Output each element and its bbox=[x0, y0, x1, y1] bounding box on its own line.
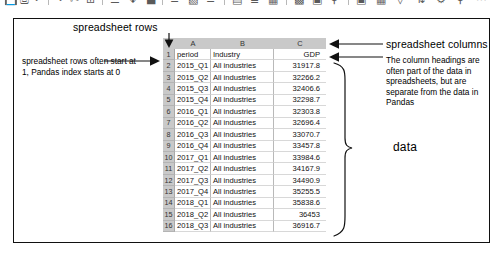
table-icon[interactable]: ▦ bbox=[268, 0, 278, 5]
cell-c11[interactable]: 34167.9 bbox=[274, 163, 326, 174]
cell-b15[interactable]: All industries bbox=[211, 209, 274, 220]
cell-a9[interactable]: 2016_Q4 bbox=[175, 141, 211, 152]
row-number-header[interactable]: 9 bbox=[163, 141, 175, 152]
spreadsheet-grid[interactable]: A B C 1periodIndustryGDP22015_Q1All indu… bbox=[163, 38, 326, 232]
align-center-icon[interactable]: ▤ bbox=[232, 0, 242, 5]
cell-c10[interactable]: 33984.6 bbox=[274, 152, 326, 163]
spreadsheet-row[interactable]: 52015_Q4All industries32298.7 bbox=[163, 95, 326, 106]
spreadsheet-row[interactable]: 32015_Q2All industries32266.2 bbox=[163, 72, 326, 83]
cell-b14[interactable]: All industries bbox=[211, 198, 274, 209]
paste-icon[interactable]: ☰ bbox=[110, 0, 120, 5]
cell-b1[interactable]: Industry bbox=[211, 49, 274, 60]
spreadsheet-row[interactable]: 62016_Q1All industries32303.8 bbox=[163, 106, 326, 117]
cell-b8[interactable]: All industries bbox=[211, 129, 274, 140]
cell-a12[interactable]: 2017_Q3 bbox=[175, 175, 211, 186]
cell-c16[interactable]: 36916.7 bbox=[274, 221, 326, 232]
row-number-header[interactable]: 4 bbox=[163, 83, 175, 94]
cell-b4[interactable]: All industries bbox=[211, 83, 274, 94]
zoom-icon[interactable]: ⚲ bbox=[330, 0, 338, 5]
cell-c5[interactable]: 32298.7 bbox=[274, 95, 326, 106]
spreadsheet-row[interactable]: 162018_Q3All industries36916.7 bbox=[163, 221, 326, 232]
cell-b5[interactable]: All industries bbox=[211, 95, 274, 106]
cell-a4[interactable]: 2015_Q3 bbox=[175, 83, 211, 94]
bold-icon[interactable]: ■ bbox=[146, 0, 156, 5]
chart-icon[interactable]: ▩ bbox=[294, 0, 304, 5]
spreadsheet-row[interactable]: 122017_Q3All industries34490.9 bbox=[163, 175, 326, 186]
cell-a16[interactable]: 2018_Q3 bbox=[175, 221, 211, 232]
cell-b7[interactable]: All industries bbox=[211, 118, 274, 129]
align-left-icon[interactable]: ≡ bbox=[206, 0, 215, 5]
cell-c3[interactable]: 32266.2 bbox=[274, 72, 326, 83]
cell-b10[interactable]: All industries bbox=[211, 152, 274, 163]
cell-c13[interactable]: 35255.5 bbox=[274, 186, 326, 197]
grid-icon[interactable]: ▦ bbox=[376, 0, 386, 5]
cell-b9[interactable]: All industries bbox=[211, 141, 274, 152]
cell-c9[interactable]: 33457.8 bbox=[274, 141, 326, 152]
cell-b16[interactable]: All industries bbox=[211, 221, 274, 232]
print-icon[interactable]: ⎙ bbox=[20, 0, 29, 5]
row-number-header[interactable]: 15 bbox=[163, 209, 175, 220]
spreadsheet-row[interactable]: 1periodIndustryGDP bbox=[163, 49, 326, 60]
cell-b11[interactable]: All industries bbox=[211, 163, 274, 174]
redo-icon[interactable]: ↷ bbox=[54, 0, 63, 5]
row-number-header[interactable]: 2 bbox=[163, 60, 175, 71]
spreadsheet-row[interactable]: 152018_Q2All industries36453 bbox=[163, 209, 326, 220]
spreadsheet-row[interactable]: 132017_Q4All industries35255.5 bbox=[163, 186, 326, 197]
underline-icon[interactable]: ▧ bbox=[188, 0, 198, 5]
help-icon[interactable]: ▣ bbox=[356, 0, 366, 5]
spreadsheet-row[interactable]: 102017_Q1All industries33984.6 bbox=[163, 152, 326, 163]
align-right-icon[interactable]: ≣ bbox=[250, 0, 259, 5]
spreadsheet-row[interactable]: 142018_Q1All industries35838.6 bbox=[163, 198, 326, 209]
save-icon[interactable]: 💾 bbox=[4, 0, 18, 5]
row-number-header[interactable]: 6 bbox=[163, 106, 175, 117]
column-header-a[interactable]: A bbox=[175, 38, 211, 49]
spreadsheet-row[interactable]: 22015_Q1All industries31917.8 bbox=[163, 60, 326, 71]
row-number-header[interactable]: 13 bbox=[163, 186, 175, 197]
italic-icon[interactable]: ≡ bbox=[170, 0, 179, 5]
cut-icon[interactable]: ✂ bbox=[70, 0, 79, 5]
filter-icon[interactable]: ▽ bbox=[396, 0, 404, 5]
row-number-header[interactable]: 7 bbox=[163, 118, 175, 129]
cell-b12[interactable]: All industries bbox=[211, 175, 274, 186]
spreadsheet-row[interactable]: 82016_Q3All industries33070.7 bbox=[163, 129, 326, 140]
cell-b13[interactable]: All industries bbox=[211, 186, 274, 197]
spreadsheet-row[interactable]: 112017_Q2All industries34167.9 bbox=[163, 163, 326, 174]
spreadsheet-row[interactable]: 42015_Q3All industries32406.6 bbox=[163, 83, 326, 94]
cell-a10[interactable]: 2017_Q1 bbox=[175, 152, 211, 163]
cell-c8[interactable]: 33070.7 bbox=[274, 129, 326, 140]
search-icon[interactable]: ⚲ bbox=[456, 0, 464, 5]
cell-a2[interactable]: 2015_Q1 bbox=[175, 60, 211, 71]
cell-c12[interactable]: 34490.9 bbox=[274, 175, 326, 186]
cell-c15[interactable]: 36453 bbox=[274, 209, 326, 220]
spreadsheet-row[interactable]: 92016_Q4All industries33457.8 bbox=[163, 141, 326, 152]
settings-icon[interactable]: ⚙ bbox=[436, 0, 446, 5]
cell-a7[interactable]: 2016_Q2 bbox=[175, 118, 211, 129]
row-number-header[interactable]: 14 bbox=[163, 198, 175, 209]
cell-c6[interactable]: 32303.8 bbox=[274, 106, 326, 117]
sort-icon[interactable]: ⇅ bbox=[416, 0, 425, 5]
cell-a14[interactable]: 2018_Q1 bbox=[175, 198, 211, 209]
row-number-header[interactable]: 8 bbox=[163, 129, 175, 140]
cell-a5[interactable]: 2015_Q4 bbox=[175, 95, 211, 106]
cell-a1[interactable]: period bbox=[175, 49, 211, 60]
row-number-header[interactable]: 3 bbox=[163, 72, 175, 83]
spreadsheet-column-header-row[interactable]: A B C bbox=[163, 38, 326, 49]
cell-a15[interactable]: 2018_Q2 bbox=[175, 209, 211, 220]
row-number-header[interactable]: 16 bbox=[163, 221, 175, 232]
image-icon[interactable]: ▣ bbox=[312, 0, 322, 5]
cell-b2[interactable]: All industries bbox=[211, 60, 274, 71]
toolbar-strip[interactable]: 💾 ⎙ ↶ ↷ ✂ ⊞ ☰ ❖ ■ ≡ ▧ ≡ ▤ ≣ ▦ ▩ ▣ ⚲ ▣ ▦ … bbox=[0, 0, 503, 9]
cell-a11[interactable]: 2017_Q2 bbox=[175, 163, 211, 174]
column-header-c[interactable]: C bbox=[274, 38, 326, 49]
undo-icon[interactable]: ↶ bbox=[34, 0, 43, 5]
cell-c2[interactable]: 31917.8 bbox=[274, 60, 326, 71]
row-number-header[interactable]: 11 bbox=[163, 163, 175, 174]
row-number-header[interactable]: 10 bbox=[163, 152, 175, 163]
cell-c7[interactable]: 32696.4 bbox=[274, 118, 326, 129]
select-all-corner[interactable] bbox=[163, 38, 175, 49]
cell-b6[interactable]: All industries bbox=[211, 106, 274, 117]
copy-icon[interactable]: ⊞ bbox=[86, 0, 95, 5]
row-number-header[interactable]: 1 bbox=[163, 49, 175, 60]
more-icon[interactable]: ⋯ bbox=[476, 0, 487, 5]
cell-a6[interactable]: 2016_Q1 bbox=[175, 106, 211, 117]
